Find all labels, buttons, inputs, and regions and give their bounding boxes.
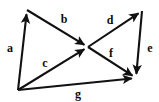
edge-label-c: c [42, 57, 47, 69]
edge-label-d: d [107, 14, 114, 26]
edge-e [136, 11, 142, 74]
edge-a [18, 14, 27, 90]
edge-label-a: a [7, 42, 13, 54]
edge-b [27, 10, 84, 45]
vector-diagram-canvas: a b c d e f g [0, 0, 159, 102]
edges-group [18, 10, 142, 90]
edge-label-b: b [61, 13, 68, 25]
edge-label-g: g [75, 88, 81, 100]
edge-label-e: e [147, 42, 152, 54]
edge-label-f: f [109, 47, 113, 59]
